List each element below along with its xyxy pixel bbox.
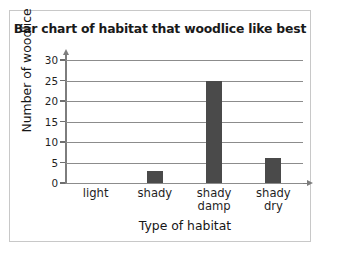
- bar: [206, 81, 222, 184]
- plot-area: [66, 60, 304, 183]
- x-axis-arrow-icon: [307, 180, 313, 186]
- bar: [147, 171, 163, 183]
- y-axis-tick-label: 20: [14, 95, 58, 107]
- y-axis-tick-mark: [60, 162, 65, 163]
- y-axis-tick-label: 0: [14, 177, 58, 189]
- gridline: [66, 60, 303, 61]
- y-axis-tick-label: 10: [14, 136, 58, 148]
- x-axis-tick-label: shady dry: [256, 187, 291, 213]
- y-axis-tick-mark: [60, 100, 65, 101]
- x-axis-tick-label: light: [83, 187, 109, 200]
- y-axis-tick-mark: [60, 80, 65, 81]
- y-axis-tick-label: 30: [14, 54, 58, 66]
- gridline: [66, 101, 303, 102]
- gridline: [66, 122, 303, 123]
- x-axis-tick-label: shady damp: [197, 187, 232, 213]
- bar: [265, 158, 281, 183]
- y-axis-tick-labels: 051015202530: [10, 11, 58, 243]
- y-axis-tick-label: 25: [14, 75, 58, 87]
- gridline: [66, 183, 303, 184]
- y-axis-tick-mark: [60, 59, 65, 60]
- y-axis-tick-mark: [60, 121, 65, 122]
- gridline: [66, 81, 303, 82]
- y-axis-tick-label: 5: [14, 157, 58, 169]
- y-axis-tick-label: 15: [14, 116, 58, 128]
- gridline: [66, 142, 303, 143]
- x-axis-tick-label: shady: [138, 187, 173, 200]
- x-axis-label: Type of habitat: [66, 218, 304, 233]
- y-axis-tick-mark: [60, 182, 65, 183]
- y-axis-tick-mark: [60, 141, 65, 142]
- chart-figure: Bar chart of habitat that woodlice like …: [9, 10, 311, 242]
